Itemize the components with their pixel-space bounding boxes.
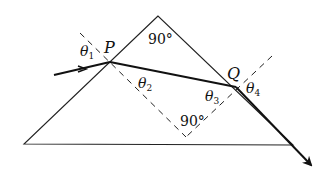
prism-diagram: P Q 90° 90° θ1 θ2 θ3 θ4 (0, 0, 330, 173)
label-theta3: θ3 (205, 88, 219, 106)
emergent-ray (236, 87, 311, 165)
label-point-q: Q (227, 64, 240, 83)
incident-ray (54, 62, 110, 75)
label-apex-angle: 90° (148, 31, 173, 47)
normal-line-p (80, 33, 186, 137)
internal-ray (110, 62, 236, 87)
label-theta4: θ4 (246, 80, 260, 98)
label-point-p: P (103, 38, 115, 57)
label-theta1: θ1 (80, 43, 94, 61)
label-normals-angle: 90° (180, 113, 205, 129)
label-theta2: θ2 (138, 75, 152, 93)
